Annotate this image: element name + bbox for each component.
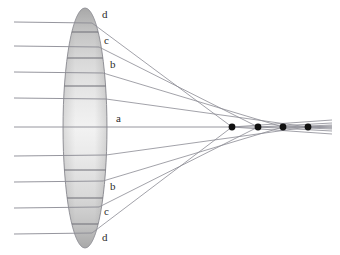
refracted-ray <box>103 73 332 129</box>
refracted-ray <box>92 23 332 134</box>
focal-point-d <box>229 124 236 131</box>
focal-point-b <box>280 124 287 131</box>
spherical-aberration-diagram: d c b a b c d <box>0 0 340 255</box>
focal-point-a <box>305 124 312 131</box>
refracted-ray <box>106 126 332 155</box>
refracted-ray <box>99 123 332 207</box>
zone-label-a: a <box>116 112 121 124</box>
zone-label-d-lower: d <box>102 231 108 243</box>
zone-label-b-upper: b <box>110 58 116 70</box>
zone-label-c-upper: c <box>104 34 109 46</box>
lens-shading-overlay <box>63 8 107 248</box>
lens-body <box>63 8 107 248</box>
zone-label-d-upper: d <box>102 8 108 20</box>
focal-point-c <box>255 124 262 131</box>
refracted-ray <box>99 47 332 131</box>
zone-label-c-lower: c <box>104 205 109 217</box>
refracted-ray <box>92 120 332 233</box>
zone-label-b-lower: b <box>110 180 116 192</box>
refracted-ray <box>106 99 332 128</box>
refracted-rays <box>92 23 332 233</box>
refracted-ray <box>103 125 332 181</box>
